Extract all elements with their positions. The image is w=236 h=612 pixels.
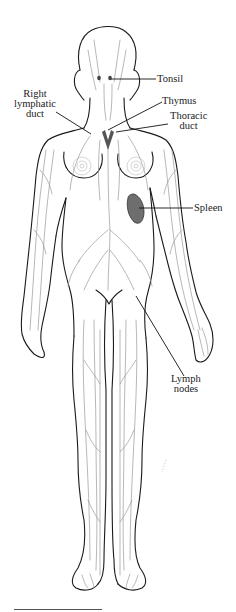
label-tonsil: Tonsil bbox=[157, 74, 183, 84]
stray-mark bbox=[162, 460, 166, 472]
breast-lymph-texture bbox=[73, 157, 145, 175]
label-right-lymphatic-duct: Right lymphatic duct bbox=[14, 89, 56, 119]
label-thoracic-duct: Thoracic duct bbox=[170, 111, 207, 131]
caption-divider bbox=[14, 609, 102, 610]
leader-lymph-nodes bbox=[136, 296, 184, 376]
label-lymph-nodes: Lymph nodes bbox=[171, 374, 201, 394]
tonsil-left bbox=[97, 76, 101, 81]
tonsil-right bbox=[108, 76, 112, 81]
label-thymus: Thymus bbox=[162, 96, 196, 106]
label-spleen: Spleen bbox=[194, 203, 223, 213]
thymus bbox=[102, 130, 114, 150]
spleen bbox=[127, 194, 144, 223]
